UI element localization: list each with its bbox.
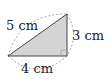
horizontal-leg-label: 4 cm xyxy=(21,61,53,76)
vertical-leg-label: 3 cm xyxy=(72,28,104,43)
triangle-diagram: 5 cm 3 cm 4 cm xyxy=(0,0,110,84)
hypotenuse-label: 5 cm xyxy=(6,18,38,33)
